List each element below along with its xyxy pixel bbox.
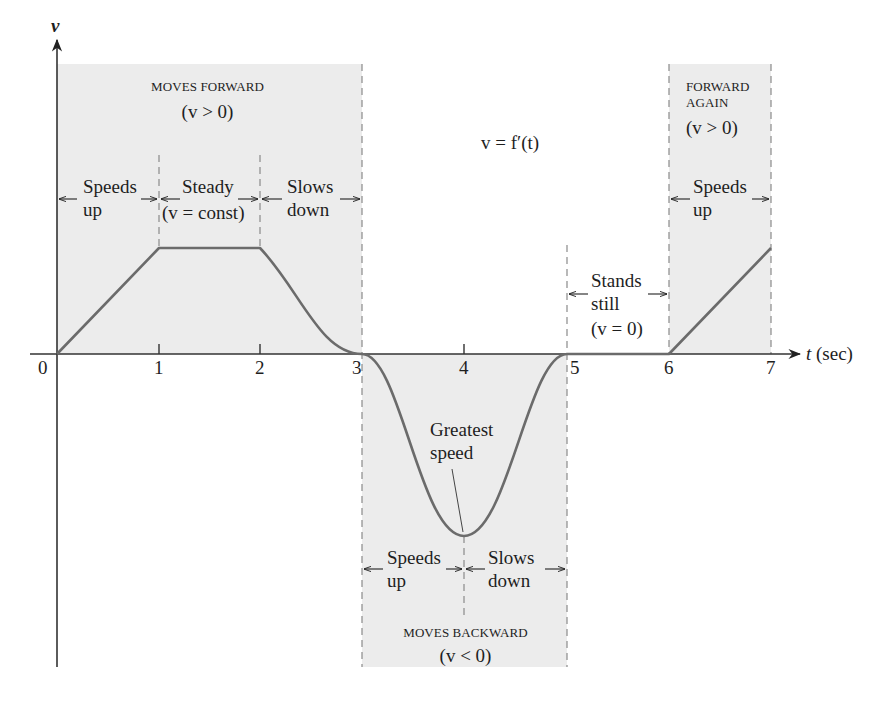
x-tick-label-2: 2: [255, 358, 265, 378]
diagram-canvas: [0, 0, 874, 702]
speeds-up-1-line1: Speeds: [83, 177, 137, 197]
moves-forward-condition: (v > 0): [165, 102, 250, 122]
forward-again-title-2: AGAIN: [686, 96, 728, 110]
x-axis-var: t: [806, 343, 811, 364]
x-tick-label-3: 3: [352, 358, 362, 378]
slows-down-1-line1: Slows: [287, 177, 333, 197]
velocity-diagram: v t (sec) 0 1 2 3 4 5 6 7 v = f′(t) MOVE…: [0, 0, 874, 702]
moves-backward-title: MOVES BACKWARD: [393, 626, 538, 640]
stands-still-line3: (v = 0): [591, 319, 643, 339]
region-moves-backward: [362, 354, 567, 667]
speeds-up-3-line2: up: [693, 200, 712, 220]
speeds-up-2-line1: Speeds: [387, 548, 441, 568]
x-tick-label-0: 0: [38, 358, 48, 378]
x-tick-label-6: 6: [664, 358, 674, 378]
x-axis-unit: (sec): [816, 343, 853, 364]
forward-again-condition: (v > 0): [686, 118, 738, 138]
moves-forward-title: MOVES FORWARD: [145, 80, 270, 94]
stands-still-line1: Stands: [591, 271, 642, 291]
speeds-up-1-line2: up: [83, 200, 102, 220]
x-axis-label: t (sec): [806, 344, 853, 364]
greatest-speed-line1: Greatest: [430, 420, 493, 440]
steady-line1: Steady: [182, 177, 234, 197]
x-tick-label-1: 1: [154, 358, 164, 378]
steady-line2: (v = const): [162, 203, 244, 223]
moves-backward-condition: (v < 0): [423, 646, 508, 666]
speeds-up-3-line1: Speeds: [693, 177, 747, 197]
slows-down-1-line2: down: [287, 200, 329, 220]
speeds-up-2-line2: up: [387, 571, 406, 591]
stands-still-line2: still: [591, 294, 620, 314]
slows-down-2-line1: Slows: [488, 548, 534, 568]
x-tick-label-4: 4: [459, 358, 469, 378]
greatest-speed-line2: speed: [430, 443, 473, 463]
x-tick-label-7: 7: [766, 358, 776, 378]
forward-again-title-1: FORWARD: [686, 80, 750, 94]
x-tick-label-5: 5: [570, 358, 580, 378]
y-axis-label: v: [51, 16, 59, 36]
slows-down-2-line2: down: [488, 571, 530, 591]
function-label: v = f′(t): [481, 133, 539, 153]
